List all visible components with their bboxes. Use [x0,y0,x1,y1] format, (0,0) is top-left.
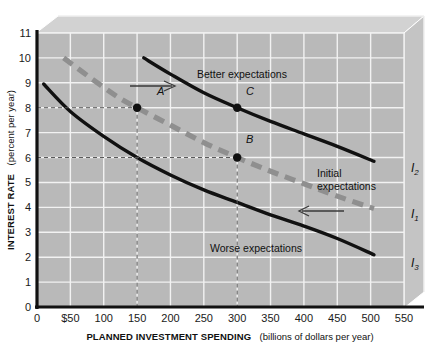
y-tick-label: 10 [19,52,31,64]
y-tick-label: 1 [25,276,31,288]
point-label-a: A [156,85,164,97]
y-axis-title-bold: INTEREST RATE [5,174,16,250]
x-axis-title: PLANNED INVESTMENT SPENDING (billions of… [86,326,373,343]
chart-svg: 01234567891011 0$50100150200250300350400… [0,0,440,353]
y-tick-label: 0 [25,301,31,313]
data-point-a [133,104,141,112]
x-tick-label: 450 [328,312,346,324]
initial-expectations-label-line1: Initial [317,167,342,179]
y-tick-label: 11 [20,27,31,39]
investment-demand-chart-figure: 01234567891011 0$50100150200250300350400… [0,0,440,353]
svg-text:INTEREST RATE (percent: INTEREST RATE (percent per year) [0,90,17,250]
x-tick-label: 300 [228,312,246,324]
y-tick-label: 7 [25,127,31,139]
x-tick-label: 350 [261,312,279,324]
x-tick-label: 500 [361,312,379,324]
frame-top-bevel [36,16,424,33]
curve-label-i3-subscript: 3 [414,263,419,272]
y-tick-label: 4 [25,201,31,213]
curve-label-i1-subscript: 1 [414,214,418,223]
x-tick-label: $50 [61,312,79,324]
x-tick-label: 0 [34,312,40,324]
y-tick-labels: 01234567891011 [19,27,31,313]
x-tick-label: 250 [195,312,213,324]
x-tick-labels: 0$50100150200250300350400450500550 [34,312,413,324]
y-tick-label: 5 [25,176,31,188]
y-axis-title-sub: (percent per year) [5,90,16,166]
y-tick-label: 6 [25,152,31,164]
x-axis-title-sub: (billions of dollars per year) [260,331,374,342]
x-tick-label: 400 [295,312,313,324]
x-tick-label: 100 [95,312,113,324]
y-tick-label: 2 [25,251,31,263]
y-tick-label: 8 [25,102,31,114]
x-tick-label: 150 [128,312,146,324]
x-axis-title-bold: PLANNED INVESTMENT SPENDING [86,331,251,342]
better-expectations-label: Better expectations [197,68,287,80]
worse-expectations-label: Worse expectations [210,242,302,254]
initial-expectations-label-line2: expectations [317,180,376,192]
data-point-b [233,153,241,161]
x-tick-label: 200 [161,312,179,324]
y-axis-title: INTEREST RATE (percent per year) [0,90,17,250]
y-tick-label: 3 [25,226,31,238]
point-label-b: B [246,133,253,145]
y-tick-label: 9 [25,77,31,89]
point-label-c: C [246,85,254,97]
curve-label-i2-subscript: 2 [413,168,419,177]
data-point-c [233,104,241,112]
x-tick-label: 550 [395,312,413,324]
